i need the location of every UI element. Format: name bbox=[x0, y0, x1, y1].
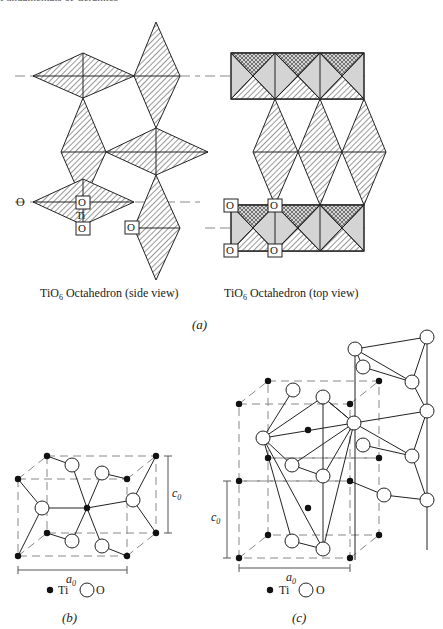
rutile-cell-b bbox=[15, 453, 172, 597]
caption-a: (a) bbox=[192, 317, 207, 333]
rutile-structure-c bbox=[223, 330, 434, 597]
side-view-diagram bbox=[15, 22, 208, 280]
top-view-oxygen-label: O bbox=[226, 244, 234, 256]
legend-o-c: O bbox=[316, 583, 325, 598]
caption-b: (b) bbox=[62, 610, 77, 626]
top-view-oxygen-label: O bbox=[226, 199, 234, 211]
caption-c: (c) bbox=[292, 610, 306, 626]
lattice-c0-label-b: c0 bbox=[172, 486, 181, 502]
oxygen-label-left: O bbox=[16, 195, 25, 210]
legend-o-b: O bbox=[96, 583, 105, 598]
legend-ti-c: Ti bbox=[279, 583, 289, 598]
top-view-diagram bbox=[205, 53, 386, 257]
oxygen-label-top: O bbox=[78, 196, 86, 208]
oxygen-label-bottom: O bbox=[78, 222, 86, 234]
figure-canvas bbox=[0, 0, 443, 629]
lattice-c0-label-c: c0 bbox=[211, 510, 220, 526]
oxygen-label-right: O bbox=[127, 221, 135, 233]
top-view-title: TiO6 Octahedron (top view) bbox=[224, 286, 359, 302]
legend-ti-b: Ti bbox=[58, 583, 68, 598]
titanium-label: Ti bbox=[76, 209, 85, 221]
side-view-title: TiO6 Octahedron (side view) bbox=[40, 286, 179, 302]
top-view-oxygen-label: O bbox=[270, 244, 278, 256]
top-view-oxygen-label: O bbox=[270, 199, 278, 211]
